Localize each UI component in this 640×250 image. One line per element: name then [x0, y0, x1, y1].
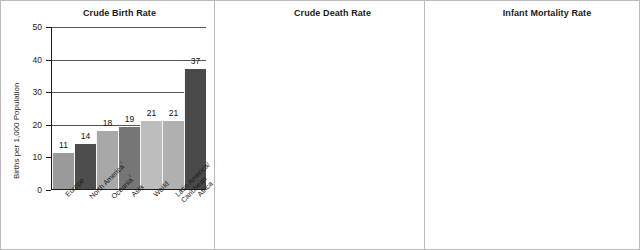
bar-slot: 21	[162, 27, 184, 189]
y-tick-label: 40	[33, 55, 42, 65]
x-tick-label: Africa	[196, 193, 214, 201]
bar-value-label: 11	[59, 140, 68, 150]
chart-panel-2: Crude Death RateDeaths per 1,000 Populat…	[215, 0, 425, 250]
y-axis-label: Births per 1,000 Population	[12, 82, 21, 179]
bar-slot: 11	[52, 27, 74, 189]
chart-panel-1: Crude Birth RateBirths per 1,000 Populat…	[0, 0, 215, 250]
bar: 21	[140, 121, 162, 189]
plot-area: 11141819212137	[51, 27, 206, 190]
chart-title: Crude Death Rate	[215, 8, 424, 18]
y-tick-mark	[46, 190, 51, 191]
bar-value-label: 18	[103, 118, 112, 128]
y-axis-ticks: 01020304050	[23, 27, 51, 190]
y-tick-label: 0	[37, 185, 42, 195]
bar-value-label: 21	[169, 108, 178, 118]
bar-series: 11141819212137	[52, 27, 206, 189]
x-tick-label: Asia	[130, 193, 144, 201]
bar-value-label: 21	[147, 108, 156, 118]
bar-value-label: 37	[191, 56, 200, 66]
bar-value-label: 19	[125, 114, 134, 124]
bar-slot: 14	[74, 27, 96, 189]
x-tick-label: World	[152, 193, 171, 201]
x-axis-labels: EuropeNorth America¹Oceania²AsiaWorldLat…	[52, 191, 206, 247]
bar-value-label: 14	[81, 131, 90, 141]
chart-title: Crude Birth Rate	[1, 8, 214, 18]
y-tick-label: 50	[33, 22, 42, 32]
y-tick-label: 20	[33, 120, 42, 130]
bar-slot: 21	[140, 27, 162, 189]
chart-panel-3: Infant Mortality RateInfant Deaths (in f…	[425, 0, 640, 250]
y-tick-label: 30	[33, 87, 42, 97]
x-tick-label: Europe	[64, 193, 87, 201]
y-tick-label: 10	[33, 152, 42, 162]
three-panel-bar-chart-figure: Crude Birth RateBirths per 1,000 Populat…	[0, 0, 640, 250]
chart-title: Infant Mortality Rate	[425, 8, 639, 18]
